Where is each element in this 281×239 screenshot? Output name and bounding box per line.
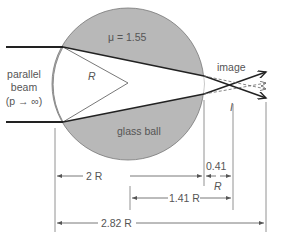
emerging-rays — [204, 72, 266, 98]
glass-ball-label: glass ball — [117, 125, 161, 137]
radius-label: R — [88, 70, 96, 82]
dimension-041-unit-label: R — [214, 180, 222, 192]
image-marker-label: I — [230, 101, 233, 113]
image-label: image — [217, 61, 246, 73]
dimension-141r-label: 1.41 R — [169, 192, 200, 204]
dimension-282r-label: 2.82 R — [101, 217, 132, 229]
refractive-index-label: μ = 1.55 — [108, 31, 146, 43]
dimension-2r-label: 2 R — [86, 170, 102, 182]
beam-label-line3: (p → ∞) — [2, 95, 46, 107]
beam-label-line2: beam — [4, 81, 44, 93]
dimension-041-label: 0.41 — [206, 160, 226, 172]
beam-label-line1: parallel — [4, 68, 44, 80]
